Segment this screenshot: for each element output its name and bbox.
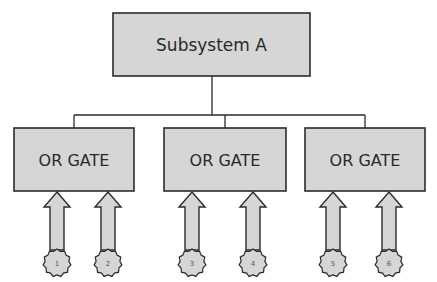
or-gate-label-3: OR GATE (330, 151, 401, 170)
basic-event-label: 2 (106, 260, 110, 268)
fault-tree-diagram: Subsystem AOR GATE12OR GATE34OR GATE56 (0, 0, 437, 282)
up-arrow-icon (320, 192, 346, 250)
up-arrow-icon (44, 192, 70, 250)
up-arrow-icon (95, 192, 121, 250)
basic-event-label: 5 (331, 260, 335, 268)
up-arrow-icon (179, 192, 205, 250)
or-gate-label-2: OR GATE (190, 151, 261, 170)
up-arrow-icon (376, 192, 402, 250)
or-gate-label-1: OR GATE (39, 151, 110, 170)
subsystem-label: Subsystem A (156, 35, 267, 55)
basic-event-label: 6 (387, 260, 392, 268)
basic-event-label: 3 (190, 260, 194, 268)
basic-event-label: 4 (251, 260, 256, 268)
up-arrow-icon (240, 192, 266, 250)
basic-event-label: 1 (55, 260, 59, 268)
